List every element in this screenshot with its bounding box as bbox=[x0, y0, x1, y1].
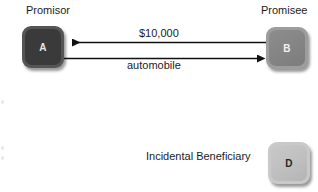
node-b-letter: B bbox=[283, 43, 290, 54]
diagram-canvas: Promisor Promisee $10,000 automobile Inc… bbox=[0, 0, 318, 192]
edge-label-automobile: automobile bbox=[127, 59, 181, 71]
node-a-letter: A bbox=[39, 42, 46, 53]
scan-artifact-speck bbox=[1, 146, 4, 150]
promisee-label: Promisee bbox=[261, 4, 307, 16]
node-d-incidental-beneficiary[interactable]: D bbox=[268, 142, 310, 184]
promisor-label: Promisor bbox=[26, 4, 70, 16]
scan-artifact-speck bbox=[1, 156, 4, 160]
scan-artifact-speck bbox=[1, 100, 4, 104]
node-b-promisee[interactable]: B bbox=[266, 27, 308, 69]
incidental-beneficiary-label: Incidental Beneficiary bbox=[146, 150, 251, 162]
node-d-letter: D bbox=[285, 158, 292, 169]
edge-label-amount: $10,000 bbox=[139, 27, 179, 39]
node-a-promisor[interactable]: A bbox=[22, 26, 64, 68]
